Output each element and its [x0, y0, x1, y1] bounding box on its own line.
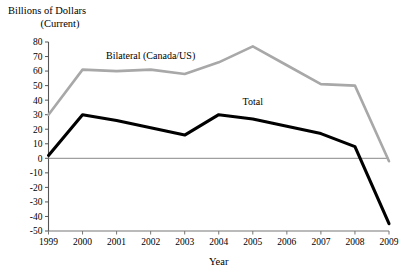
chart-page: Billions of Dollars (Current) 8070605040… — [0, 0, 404, 280]
data-series-group — [49, 46, 390, 223]
x-axis-tick-label: 2008 — [345, 237, 364, 247]
y-axis-group: 80706050403020100-10-20-30-40-50 — [30, 37, 49, 236]
line-chart-plot: 80706050403020100-10-20-30-40-50 1999200… — [0, 0, 404, 280]
x-axis-title: Year — [209, 256, 229, 267]
y-axis-tick-label: -40 — [30, 212, 43, 222]
y-axis-tick-label: 30 — [33, 110, 43, 120]
x-axis-tick-label: 2007 — [311, 237, 330, 247]
x-axis-tick-label: 2001 — [107, 237, 126, 247]
x-axis-tick-labels: 1999200020012002200320042005200620072008… — [39, 237, 399, 247]
series-line — [49, 115, 390, 224]
y-axis-tick-label: 0 — [38, 154, 43, 164]
x-axis-tick-label: 2002 — [141, 237, 160, 247]
series-label: Total — [243, 96, 264, 107]
x-axis-tick-label: 1999 — [39, 237, 58, 247]
series-label-group: Bilateral (Canada/US)Total — [106, 50, 263, 106]
y-axis-tick-label: -50 — [30, 226, 43, 236]
y-axis-tick-label: -30 — [30, 197, 43, 207]
y-axis-tick-label: 20 — [33, 125, 43, 135]
y-axis-tick-label: 80 — [33, 37, 43, 47]
x-axis-tick-label: 2003 — [175, 237, 194, 247]
y-axis-tick-label: 10 — [33, 139, 43, 149]
y-axis-tick-label: 70 — [33, 52, 43, 62]
x-axis-tick-label: 2009 — [380, 237, 399, 247]
y-axis-tick-label: -10 — [30, 168, 43, 178]
y-axis-tick-label: 40 — [33, 96, 43, 106]
y-axis-tick-label: 50 — [33, 81, 43, 91]
x-axis-tick-label: 2006 — [277, 237, 296, 247]
x-axis-tick-label: 2000 — [73, 237, 92, 247]
series-label: Bilateral (Canada/US) — [106, 50, 195, 62]
y-axis-tick-labels: 80706050403020100-10-20-30-40-50 — [30, 37, 43, 236]
x-axis-tick-label: 2004 — [209, 237, 228, 247]
x-axis-group: 1999200020012002200320042005200620072008… — [39, 231, 399, 267]
series-line — [49, 46, 390, 161]
x-axis-tick-label: 2005 — [243, 237, 262, 247]
y-axis-tick-label: -20 — [30, 183, 43, 193]
y-axis-tick-label: 60 — [33, 66, 43, 76]
